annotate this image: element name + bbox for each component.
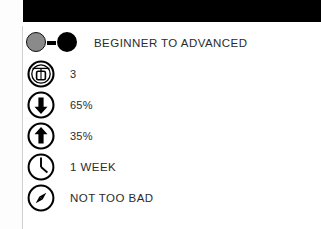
left-margin	[0, 0, 22, 229]
stat-row-downhill: 65%	[24, 90, 321, 121]
stat-row-duration: 1 WEEK	[24, 152, 321, 183]
stat-value-vibe: NOT TOO BAD	[70, 183, 154, 213]
stats-row-list: BEGINNER TO ADVANCED 3	[24, 28, 321, 214]
arrow-down-circle-icon	[26, 90, 56, 120]
gondola-icon	[26, 59, 56, 89]
stat-value-uphill: 35%	[70, 121, 93, 151]
difficulty-dots-icon	[24, 31, 80, 55]
stat-value-difficulty: BEGINNER TO ADVANCED	[94, 28, 247, 58]
dot-connector-dash	[47, 41, 56, 45]
top-black-banner	[23, 0, 321, 22]
stat-row-difficulty: BEGINNER TO ADVANCED	[24, 28, 321, 59]
left-divider-rule	[22, 26, 23, 229]
dot-beginner-icon	[26, 32, 46, 52]
stat-value-duration: 1 WEEK	[70, 152, 116, 182]
dot-advanced-icon	[57, 32, 77, 52]
stat-value-downhill: 65%	[70, 90, 93, 120]
compass-icon	[26, 183, 56, 213]
stat-row-vibe: NOT TOO BAD	[24, 183, 321, 214]
stats-panel: BEGINNER TO ADVANCED 3	[0, 0, 321, 229]
stat-value-gondolas: 3	[70, 59, 76, 89]
clock-icon	[26, 152, 56, 182]
stat-row-gondolas: 3	[24, 59, 321, 90]
stat-row-uphill: 35%	[24, 121, 321, 152]
arrow-up-circle-icon	[26, 121, 56, 151]
